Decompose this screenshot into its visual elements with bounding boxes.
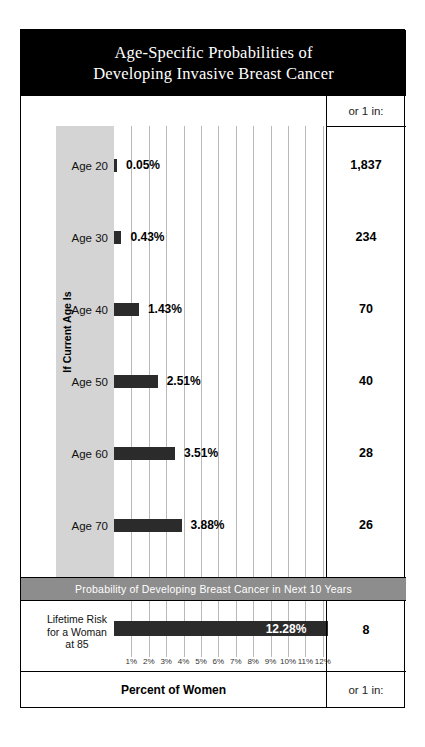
bar-row: Age 603.51%28 xyxy=(21,422,406,494)
bar-value-label: 0.43% xyxy=(130,230,164,244)
age-label: Age 30 xyxy=(56,232,108,244)
lifetime-label-line-1: Lifetime Risk xyxy=(39,613,115,626)
section-banner: Probability of Developing Breast Cancer … xyxy=(21,578,406,600)
bar-row: Age 300.43%234 xyxy=(21,206,406,278)
chart-frame: Age-Specific Probabilities of Developing… xyxy=(20,29,405,708)
bar xyxy=(114,303,139,316)
bar-value-label: 3.51% xyxy=(184,446,218,460)
x-tick-label: 7% xyxy=(230,657,242,666)
bar-value-label: 0.05% xyxy=(126,158,160,172)
x-tick-label: 6% xyxy=(213,657,225,666)
or-one-in-value: 40 xyxy=(326,374,406,388)
age-label: Age 50 xyxy=(56,376,108,388)
lifetime-or-one-in: 8 xyxy=(326,623,406,637)
bar-value-label: 2.51% xyxy=(167,374,201,388)
bar xyxy=(114,231,121,244)
bar xyxy=(114,447,175,460)
bar xyxy=(114,159,117,172)
lifetime-label-line-3: at 85 xyxy=(39,638,115,651)
or-one-in-value: 70 xyxy=(326,302,406,316)
or-one-in-value: 1,837 xyxy=(326,158,406,172)
age-label: Age 60 xyxy=(56,448,108,460)
x-tick-label: 2% xyxy=(143,657,155,666)
or-one-in-header: or 1 in: xyxy=(326,96,406,126)
bar-value-label: 3.88% xyxy=(191,518,225,532)
x-tick-label: 5% xyxy=(195,657,207,666)
x-tick-label: 8% xyxy=(247,657,259,666)
title-line-1: Age-Specific Probabilities of xyxy=(114,42,312,63)
x-tick-label: 12% xyxy=(315,657,331,666)
title-line-2: Developing Invasive Breast Cancer xyxy=(93,63,334,84)
bar-row: Age 703.88%26 xyxy=(21,494,406,566)
x-tick-label: 4% xyxy=(178,657,190,666)
bar-value-label: 1.43% xyxy=(148,302,182,316)
lifetime-label-line-2: for a Woman xyxy=(39,626,115,639)
bar xyxy=(114,519,182,532)
bar-row: Age 401.43%70 xyxy=(21,278,406,350)
x-tick-label: 1% xyxy=(126,657,138,666)
plot-area: If Current Age Is Age 200.05%1,837Age 30… xyxy=(21,126,406,578)
age-label: Age 20 xyxy=(56,160,108,172)
chart-title: Age-Specific Probabilities of Developing… xyxy=(21,30,406,96)
x-tick-label: 9% xyxy=(265,657,277,666)
age-label: Age 40 xyxy=(56,304,108,316)
bar xyxy=(114,375,158,388)
or-one-in-value: 234 xyxy=(326,230,406,244)
plot-right-divider xyxy=(326,126,327,578)
x-tick-label: 10% xyxy=(280,657,296,666)
lifetime-risk-row: Lifetime Risk for a Woman at 85 12.28% 8… xyxy=(21,601,406,671)
age-label: Age 70 xyxy=(56,520,108,532)
lifetime-risk-label: Lifetime Risk for a Woman at 85 xyxy=(39,613,115,651)
or-one-in-value: 28 xyxy=(326,446,406,460)
x-axis-label: Percent of Women xyxy=(21,672,326,708)
bar-row: Age 502.51%40 xyxy=(21,350,406,422)
lifetime-risk-value: 12.28% xyxy=(266,622,307,636)
or-one-in-value: 26 xyxy=(326,518,406,532)
header-strip: or 1 in: xyxy=(21,96,406,126)
x-tick-label: 3% xyxy=(160,657,172,666)
x-axis-ticks: 1%2%3%4%5%6%7%8%9%10%11%12% xyxy=(21,657,326,671)
footer: Percent of Women or 1 in: xyxy=(21,672,406,708)
x-tick-label: 11% xyxy=(298,657,313,666)
footer-or-one-in: or 1 in: xyxy=(326,672,406,708)
bar-row: Age 200.05%1,837 xyxy=(21,134,406,206)
